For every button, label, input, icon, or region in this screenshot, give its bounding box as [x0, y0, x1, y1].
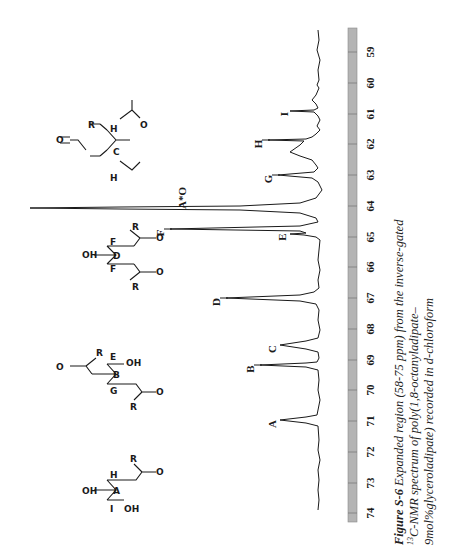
tick-71: 71 [364, 416, 376, 427]
tick-69: 69 [364, 354, 376, 366]
tick-60: 60 [364, 77, 376, 89]
svg-text:R: R [132, 282, 139, 292]
peak-label-D: D [210, 298, 222, 306]
spectrum-trace [30, 30, 322, 510]
svg-text:O: O [156, 267, 164, 277]
peak-label-C: C [266, 345, 278, 353]
svg-text:E: E [110, 352, 116, 362]
tick-73: 73 [364, 477, 376, 489]
peak-label-E: E [276, 233, 288, 240]
svg-text:R: R [130, 454, 137, 464]
chemical-structures: O R O H H C OH F F D R R O O O [56, 100, 164, 514]
structure-D: OH F F D R R O O [82, 222, 164, 292]
svg-text:F: F [110, 237, 116, 247]
tick-67: 67 [364, 292, 376, 304]
svg-text:I: I [110, 504, 113, 514]
svg-text:H: H [110, 470, 118, 480]
peak-label-H: H [252, 139, 264, 148]
svg-text:F: F [110, 264, 116, 274]
svg-text:OH: OH [124, 504, 139, 514]
peak-labels: I H G A*O F E D C B A [154, 112, 290, 428]
peak-label-AO: A*O [176, 187, 188, 209]
svg-text:R: R [88, 120, 95, 130]
svg-text:A: A [113, 486, 120, 496]
svg-text:O: O [140, 120, 148, 130]
svg-text:R: R [96, 348, 103, 358]
tick-63: 63 [364, 169, 376, 181]
ppm-tick-labels: 74 73 72 71 70 69 68 67 66 65 64 63 62 6… [364, 46, 376, 519]
svg-text:OH: OH [126, 358, 141, 368]
peak-label-B: B [244, 365, 256, 373]
peak-label-I: I [278, 112, 290, 116]
svg-text:R: R [132, 222, 139, 232]
svg-text:O: O [156, 387, 164, 397]
tick-74: 74 [364, 507, 376, 519]
peak-label-G: G [262, 174, 274, 183]
svg-text:OH: OH [82, 486, 97, 496]
svg-text:G: G [110, 386, 117, 396]
tick-72: 72 [364, 446, 376, 458]
tick-59: 59 [364, 46, 376, 58]
svg-text:H: H [110, 173, 118, 183]
svg-text:C: C [113, 147, 120, 157]
svg-text:OH: OH [82, 250, 97, 260]
svg-text:H: H [110, 124, 118, 134]
tick-65: 65 [364, 231, 376, 243]
structure-B: O R OH E G B O R [56, 348, 164, 412]
structure-A: OH OH H I A O R [82, 454, 164, 514]
svg-text:O: O [56, 362, 64, 372]
svg-text:O: O [56, 135, 64, 145]
tick-64: 64 [364, 200, 376, 212]
structure-C: O R O H H C [56, 100, 148, 183]
peak-label-leaders [164, 140, 280, 365]
tick-66: 66 [364, 261, 376, 273]
tick-68: 68 [364, 323, 376, 335]
tick-62: 62 [364, 138, 376, 150]
svg-text:D: D [113, 251, 120, 261]
svg-text:O: O [156, 233, 164, 243]
tick-70: 70 [364, 384, 376, 396]
svg-text:R: R [130, 402, 137, 412]
svg-text:O: O [156, 467, 164, 477]
peak-label-A: A [266, 420, 278, 428]
tick-61: 61 [364, 109, 376, 120]
ppm-axis [348, 28, 357, 522]
svg-text:B: B [113, 370, 120, 380]
nmr-figure: I H G A*O F E D C B A 74 73 72 71 70 69 … [0, 0, 470, 546]
